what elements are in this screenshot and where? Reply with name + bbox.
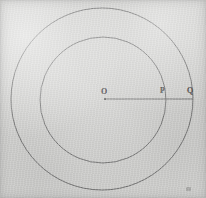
- point-label-q: Q: [187, 87, 193, 95]
- point-label-o: O: [101, 88, 107, 96]
- point-label-p: P: [160, 87, 165, 95]
- inner-circle: [40, 37, 166, 163]
- geometry-figure: O P Q: [0, 0, 206, 198]
- figure-canvas: [0, 0, 206, 198]
- center-point-dot: [104, 98, 106, 100]
- paper-smudge-mark: [186, 187, 191, 191]
